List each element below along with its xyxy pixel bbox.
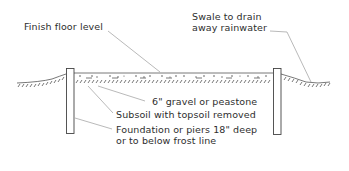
label-swale-line-1: Swale to drain — [192, 11, 267, 22]
label-foundation: Foundation or piers 18" deep or to below… — [116, 124, 257, 146]
label-swale-line-2: away rainwater — [192, 22, 267, 33]
left-foundation-post — [67, 69, 75, 134]
gravel-layer — [74, 73, 273, 83]
label-swale: Swale to drain away rainwater — [192, 11, 267, 33]
right-foundation-post — [274, 69, 282, 135]
label-subsoil: Subsoil with topsoil removed — [116, 109, 256, 120]
label-gravel: 6" gravel or peastone — [152, 96, 257, 107]
label-foundation-line-1: Foundation or piers 18" deep — [116, 124, 257, 135]
right-ground-swale — [281, 74, 330, 87]
left-ground — [17, 74, 66, 87]
label-foundation-line-2: or to below frost line — [116, 135, 257, 146]
label-finish-floor-level: Finish floor level — [24, 21, 103, 32]
